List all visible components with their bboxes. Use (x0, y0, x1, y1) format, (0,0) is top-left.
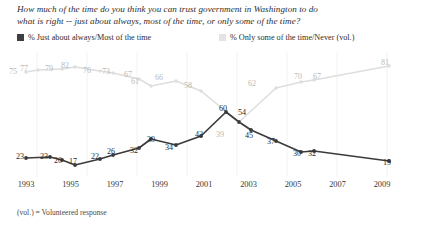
footnote: (vol.) = Volunteered response (17, 208, 107, 217)
x-axis-tick-label: 1995 (57, 180, 85, 189)
data-label-trust: 42 (192, 130, 206, 139)
data-label-trust: 32 (127, 146, 141, 155)
chart-legend: % Just about always/Most of the time % O… (17, 33, 407, 46)
x-axis-tick-label: 2009 (368, 180, 396, 189)
light-swatch-icon (219, 34, 226, 41)
series-line-trust (26, 112, 389, 165)
legend-label-distrust: % Only some of the time/Never (vol.) (230, 33, 354, 42)
question-line-1: How much of the time do you think you ca… (17, 4, 318, 15)
x-axis-tick-label: 2007 (324, 180, 352, 189)
data-label-distrust: 39 (213, 130, 227, 139)
data-label-trust: 32 (305, 149, 319, 158)
data-label-distrust: 82 (58, 61, 72, 70)
data-point (174, 79, 177, 82)
dark-swatch-icon (17, 34, 24, 41)
x-axis-tick-label: 2001 (190, 180, 218, 189)
data-label-trust: 20 (51, 156, 65, 165)
x-axis-tick-label: 2003 (235, 180, 263, 189)
data-label-distrust: 79 (42, 64, 56, 73)
data-label-distrust: 67 (310, 72, 324, 81)
data-label-trust: 34 (162, 143, 176, 152)
data-label-distrust: 66 (152, 73, 166, 82)
data-label-trust: 54 (235, 108, 249, 117)
data-label-trust: 39 (144, 135, 158, 144)
x-axis-tick-label: 1997 (101, 180, 129, 189)
legend-item-distrust: % Only some of the time/Never (vol.) (219, 33, 354, 42)
data-label-distrust: 62 (245, 79, 259, 88)
data-label-trust: 60 (216, 104, 230, 113)
data-label-trust: 19 (380, 158, 394, 167)
data-point (199, 89, 202, 92)
data-label-distrust: 70 (291, 72, 305, 81)
legend-item-trust: % Just about always/Most of the time (17, 33, 151, 42)
data-label-distrust: 77 (17, 64, 31, 73)
legend-label-trust: % Just about always/Most of the time (28, 33, 151, 42)
question-line-2: what is right -- just about always, most… (17, 16, 300, 27)
data-label-distrust: 81 (378, 58, 392, 67)
data-label-distrust: 61 (128, 77, 142, 86)
x-axis-tick-label: 1999 (146, 180, 174, 189)
data-label-trust: 37 (264, 137, 278, 146)
x-axis: 199319951997199920012003200520072009 (0, 180, 422, 194)
data-point (36, 68, 39, 71)
data-point (274, 86, 277, 89)
data-label-distrust: 73 (99, 67, 113, 76)
x-axis-tick-label: 1993 (12, 180, 40, 189)
data-label-trust: 17 (66, 157, 80, 166)
data-label-trust: 23 (13, 152, 27, 161)
data-point (149, 84, 152, 87)
data-label-trust: 30 (290, 149, 304, 158)
data-label-distrust: 58 (181, 81, 195, 90)
data-point (73, 65, 76, 68)
data-label-trust: 45 (242, 131, 256, 140)
chart-figure: How much of the time do you think you ca… (0, 0, 422, 227)
data-label-trust: 23 (37, 152, 51, 161)
data-label-trust: 26 (104, 147, 118, 156)
x-axis-tick-label: 2005 (279, 180, 307, 189)
data-label-distrust: 76 (80, 66, 94, 75)
data-point (237, 120, 241, 124)
data-label-trust: 22 (88, 152, 102, 161)
